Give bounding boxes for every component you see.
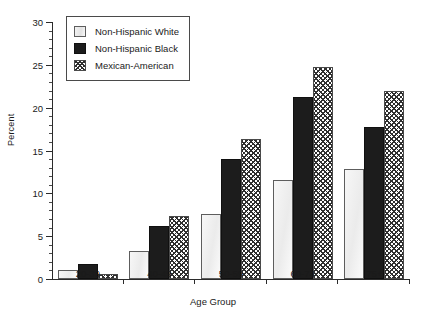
y-axis-tick-label: 30 [32, 17, 43, 28]
bar [384, 91, 404, 279]
bar [273, 180, 293, 279]
y-axis-tick-mark [46, 279, 52, 280]
crosshatch-square-icon [74, 60, 86, 71]
x-axis-group-separator [123, 279, 124, 284]
x-axis-group-separator [409, 279, 410, 284]
bar [221, 159, 241, 279]
black-square-icon [74, 43, 86, 54]
x-axis-category-label: 60-74 [290, 268, 314, 279]
x-axis-line [52, 279, 410, 280]
bar [241, 139, 261, 279]
y-axis-tick-label: 5 [38, 231, 43, 242]
x-axis-category-label: 40-49 [147, 268, 171, 279]
bar [98, 274, 118, 279]
legend-item: Mexican-American [74, 57, 179, 74]
bar [313, 67, 333, 279]
bar [169, 216, 189, 279]
y-axis-tick-label: 15 [32, 145, 43, 156]
legend-item-label: Non-Hispanic White [95, 26, 179, 37]
legend-item: Non-Hispanic Black [74, 40, 179, 57]
x-axis-category-label: 20-39 [76, 268, 100, 279]
legend-item-label: Non-Hispanic Black [95, 43, 178, 54]
x-axis-group-separator [266, 279, 267, 284]
y-axis-tick-label: 20 [32, 102, 43, 113]
y-axis-tick-label: 0 [38, 274, 43, 285]
y-axis-tick-label: 10 [32, 188, 43, 199]
bar-group [195, 22, 267, 279]
bar [293, 97, 313, 279]
legend: Non-Hispanic White Non-Hispanic Black Me… [66, 16, 190, 81]
x-axis-title: Age Group [0, 296, 426, 307]
x-axis-category-label: 50-59 [219, 268, 243, 279]
white-square-icon [74, 26, 86, 37]
bar-group [338, 22, 410, 279]
y-axis-title: Percent [6, 66, 16, 146]
x-axis-category-label: 75+ [366, 268, 382, 279]
bar-group [267, 22, 339, 279]
bar [364, 127, 384, 279]
y-axis-tick-label: 25 [32, 59, 43, 70]
bar [344, 169, 364, 280]
bar-chart: Percent 051015202530 20-3940-4950-5960-7… [0, 0, 426, 332]
x-axis-group-separator [194, 279, 195, 284]
x-axis-group-separator [337, 279, 338, 284]
legend-item-label: Mexican-American [95, 60, 174, 71]
legend-item: Non-Hispanic White [74, 23, 179, 40]
